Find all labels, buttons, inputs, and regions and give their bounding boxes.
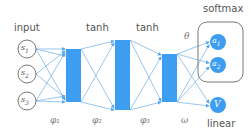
hidden-layer-2-bar	[115, 40, 130, 110]
output-v-text: V	[214, 99, 221, 109]
weight-omega-label: ω	[181, 115, 188, 125]
edges-layer2-to-layer3	[130, 40, 161, 110]
softmax-label: softmax	[203, 3, 243, 14]
output-a2-text: a2	[212, 59, 221, 70]
weight-phi1-label: φ₁	[50, 115, 60, 125]
input-label: input	[14, 22, 40, 33]
linear-label: linear	[207, 118, 235, 129]
hidden-layer-3-bar	[162, 54, 177, 102]
edges-layer1-to-layer2	[81, 41, 114, 110]
tanh-label-2: tanh	[136, 22, 159, 33]
weight-phi2-label: φ₂	[92, 115, 102, 125]
weight-phi3-label: φ₃	[140, 115, 150, 125]
input-s1-text: s1	[21, 43, 29, 54]
tanh-label-1: tanh	[86, 22, 109, 33]
input-s2-text: s2	[21, 68, 29, 79]
edges-input-to-layer1	[36, 49, 65, 102]
input-s3-text: s3	[21, 95, 29, 106]
theta-label: θ	[184, 31, 189, 41]
hidden-layer-1-bar	[66, 49, 81, 102]
edges-layer3-to-outputs	[177, 42, 209, 106]
output-a1-text: a1	[212, 36, 221, 47]
